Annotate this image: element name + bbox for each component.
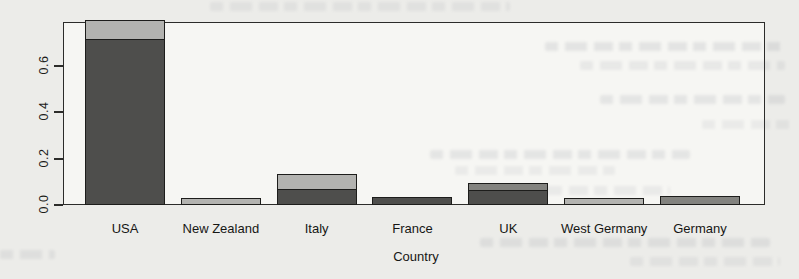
bar-segment-medium (661, 197, 739, 204)
bar-segment-light (182, 199, 260, 204)
ghost-text-line (210, 2, 510, 11)
bar-france (372, 197, 452, 205)
y-tick-label: 0.6 (37, 48, 51, 82)
bar-segment-dark (469, 190, 547, 204)
y-tick-label: 0.4 (37, 94, 51, 128)
bar-usa (85, 20, 165, 205)
y-tick (54, 65, 63, 67)
bar-italy (277, 174, 357, 205)
bar-segment-dark (278, 189, 356, 204)
bar-segment-light (86, 21, 164, 39)
bar-segment-dark (86, 39, 164, 204)
bar-west-germany (564, 198, 644, 205)
bar-segment-light (278, 175, 356, 189)
bar-segment-dark (373, 198, 451, 204)
x-tick-label-germany: Germany (640, 221, 760, 236)
scanned-page: 0.00.20.40.6 USANew ZealandItalyFranceUK… (0, 0, 799, 279)
bar-segment-light (565, 199, 643, 204)
y-tick (54, 204, 63, 206)
bar-uk (468, 183, 548, 205)
y-tick-label: 0.0 (37, 187, 51, 221)
y-tick (54, 158, 63, 160)
x-axis-title: Country (356, 249, 476, 264)
ghost-text-line (630, 257, 780, 266)
bar-new-zealand (181, 198, 261, 205)
plot-area (63, 22, 765, 205)
ghost-text-line (0, 250, 55, 259)
bar-germany (660, 196, 740, 205)
ghost-text-line (480, 238, 770, 247)
y-tick-label: 0.2 (37, 141, 51, 175)
y-tick (54, 111, 63, 113)
